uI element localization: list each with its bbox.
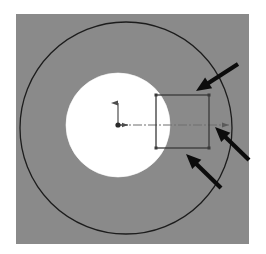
annular-section-diagram <box>0 0 266 254</box>
corner-node-top-left <box>155 94 158 97</box>
corner-node-top-right <box>208 94 211 97</box>
corner-node-bottom-left <box>155 147 158 150</box>
corner-node-bottom-right <box>208 147 211 150</box>
figure-container <box>0 0 266 254</box>
origin-point <box>115 122 120 127</box>
